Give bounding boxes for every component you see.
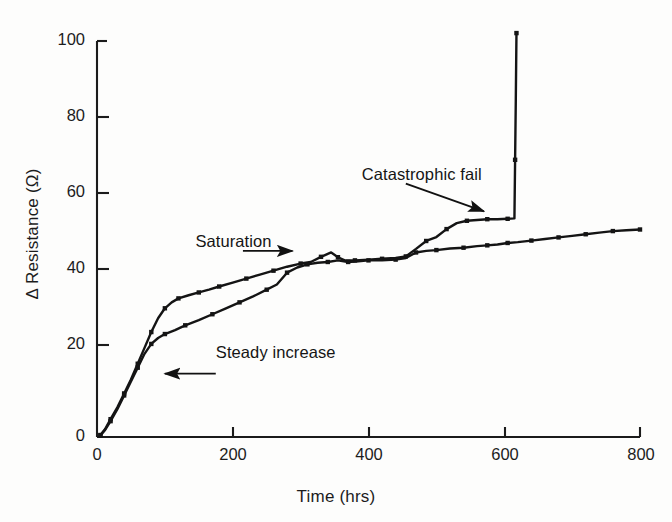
data-point-marker [465, 219, 469, 223]
y-tick-label-80: 80 [39, 106, 85, 125]
data-point-marker [271, 268, 275, 272]
data-point-marker [513, 158, 517, 162]
data-point-marker [217, 284, 221, 288]
x-tick-label-400: 400 [339, 445, 399, 464]
data-point-marker [149, 342, 153, 346]
series-0 [98, 31, 518, 437]
data-point-marker [414, 250, 418, 254]
y-tick-label-0: 0 [39, 426, 85, 445]
data-point-marker [346, 260, 350, 264]
x-tick-label-600: 600 [475, 445, 535, 464]
y-tick-label-20: 20 [39, 334, 85, 353]
data-point-marker [136, 366, 140, 370]
data-point-marker [485, 243, 489, 247]
annotation-catastrophic-fail: Catastrophic fail [362, 165, 482, 184]
data-point-marker [514, 31, 518, 35]
annotation-arrow-catastrophic-fail [406, 184, 484, 212]
data-point-marker [163, 306, 167, 310]
y-tick-label-40: 40 [39, 258, 85, 277]
data-point-marker [197, 290, 201, 294]
data-point-marker [149, 330, 153, 334]
data-point-marker [319, 255, 323, 259]
data-point-marker [122, 393, 126, 397]
data-point-marker [461, 246, 465, 250]
data-point-marker [424, 239, 428, 243]
data-point-marker [326, 260, 330, 264]
chart-figure: 100 80 60 40 20 0 0 200 400 600 800 Time… [0, 0, 672, 522]
y-tick-label-100: 100 [39, 30, 85, 49]
data-point-marker [98, 433, 102, 437]
data-point-marker [176, 296, 180, 300]
data-point-marker [108, 419, 112, 423]
data-point-marker [529, 238, 533, 242]
data-point-marker [183, 323, 187, 327]
data-point-marker [505, 217, 509, 221]
data-point-marker [485, 217, 489, 221]
data-point-marker [393, 257, 397, 261]
data-point-marker [305, 262, 309, 266]
y-axis-title: Δ Resistance (Ω) [23, 168, 42, 299]
y-tick-marks [97, 117, 109, 345]
data-point-marker [366, 258, 370, 262]
series-line [100, 33, 516, 435]
x-tick-label-200: 200 [203, 445, 263, 464]
data-point-marker [285, 270, 289, 274]
y-tick-label-60: 60 [39, 182, 85, 201]
annotation-steady-increase: Steady increase [216, 343, 336, 362]
data-point-marker [444, 227, 448, 231]
series-1 [98, 227, 642, 437]
data-point-marker [264, 287, 268, 291]
data-point-marker [638, 227, 642, 231]
data-series-layer [98, 31, 642, 438]
data-point-marker [505, 241, 509, 245]
x-tick-label-800: 800 [611, 445, 671, 464]
data-point-marker [611, 229, 615, 233]
data-point-marker [584, 232, 588, 236]
plot-canvas [0, 0, 672, 522]
data-point-marker [163, 332, 167, 336]
annotation-saturation: Saturation [195, 232, 271, 251]
x-axis-title: Time (hrs) [0, 487, 672, 507]
data-point-marker [210, 312, 214, 316]
data-point-marker [336, 255, 340, 259]
y-axis-title-container: Δ Resistance (Ω) [23, 94, 43, 374]
x-tick-marks [233, 427, 505, 437]
data-point-marker [244, 276, 248, 280]
data-point-marker [237, 300, 241, 304]
data-point-marker [434, 248, 438, 252]
x-tick-label-0: 0 [67, 445, 127, 464]
data-point-marker [556, 235, 560, 239]
